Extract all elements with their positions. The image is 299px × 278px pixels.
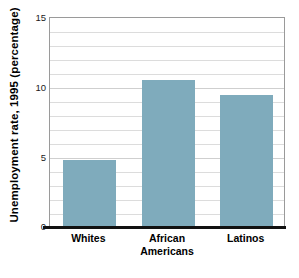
category-label-line1: Whites — [71, 232, 105, 244]
y-tick-label-5: 5 — [24, 152, 46, 163]
x-axis-category-labels: WhitesAfricanAmericansLatinos — [49, 232, 285, 276]
bar-chart-figure: Unemployment rate, 1995 (percentage) 15 … — [0, 0, 299, 278]
y-axis-title-text: Unemployment rate, 1995 (percentage) — [8, 7, 20, 222]
y-axis-tick-labels: 15 10 5 0 — [24, 0, 46, 240]
bar-african-americans — [142, 80, 195, 227]
y-tick-label-10: 10 — [24, 82, 46, 93]
category-label-line1: African — [149, 232, 185, 244]
category-label-line2: Americans — [117, 245, 217, 258]
plot-area — [49, 17, 285, 227]
bar-latinos — [220, 95, 273, 227]
x-axis-baseline — [43, 226, 286, 229]
bar-whites — [63, 160, 116, 227]
bars-layer — [50, 18, 284, 227]
category-label-latinos: Latinos — [196, 232, 296, 245]
y-tick-label-15: 15 — [24, 12, 46, 23]
category-label-line1: Latinos — [227, 232, 264, 244]
